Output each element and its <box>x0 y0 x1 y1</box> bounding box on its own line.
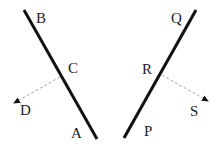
label-r: R <box>142 62 152 77</box>
diagram-canvas: B C D A Q R S P <box>0 0 217 149</box>
label-d: D <box>20 103 31 118</box>
diagram-lines <box>0 0 217 149</box>
label-s: S <box>190 104 198 119</box>
label-a: A <box>71 126 82 141</box>
line-qp <box>124 10 196 138</box>
label-b: B <box>36 11 46 26</box>
ray-cd <box>14 77 60 103</box>
ray-rs <box>162 75 208 101</box>
line-ba <box>24 10 97 139</box>
label-p: P <box>144 124 152 139</box>
label-q: Q <box>171 11 182 26</box>
label-c: C <box>68 61 78 76</box>
